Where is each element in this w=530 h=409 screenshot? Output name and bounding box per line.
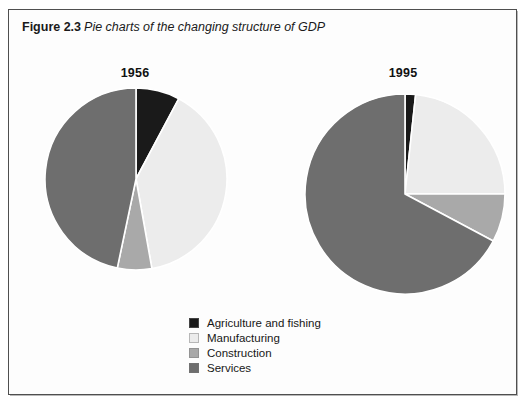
figure-number: Figure 2.3 (22, 20, 81, 34)
pie-chart-1956-title: 1956 (32, 66, 238, 80)
legend-label-manufacturing: Manufacturing (207, 332, 280, 345)
pie-chart-1995-svg (296, 84, 514, 298)
legend-item-construction: Construction (189, 346, 321, 360)
legend-swatch-agriculture-icon (189, 318, 199, 328)
legend-swatch-manufacturing-icon (189, 333, 199, 343)
legend-swatch-construction-icon (189, 348, 199, 358)
legend-label-agriculture: Agriculture and fishing (207, 317, 321, 330)
pie-slice (45, 88, 136, 268)
pie-chart-1995: 1995 (296, 66, 514, 298)
legend-item-agriculture: Agriculture and fishing (189, 316, 321, 330)
pie-slice (405, 95, 505, 194)
chart-legend: Agriculture and fishing Manufacturing Co… (189, 316, 321, 376)
pie-chart-1956-svg (35, 84, 241, 280)
figure-root: Figure 2.3Pie charts of the changing str… (0, 0, 530, 409)
figure-caption-text: Pie charts of the changing structure of … (84, 20, 325, 34)
legend-swatch-services-icon (189, 363, 199, 373)
pie-chart-1995-title: 1995 (294, 66, 512, 80)
figure-caption: Figure 2.3Pie charts of the changing str… (22, 20, 325, 35)
legend-label-construction: Construction (207, 347, 272, 360)
legend-item-manufacturing: Manufacturing (189, 331, 321, 345)
legend-label-services: Services (207, 362, 251, 375)
legend-item-services: Services (189, 361, 321, 375)
pie-chart-1956: 1956 (35, 66, 241, 281)
